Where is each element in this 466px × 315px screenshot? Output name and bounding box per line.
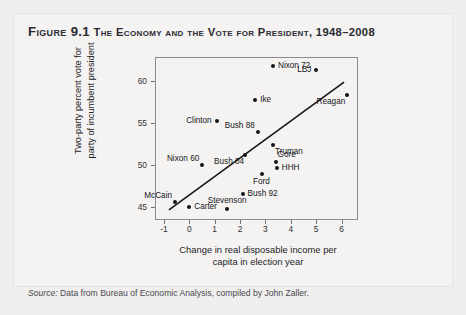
y-tick-label: 50 (131, 160, 147, 170)
x-tick-label: 1 (212, 224, 217, 234)
data-point-label: Ike (260, 95, 271, 104)
x-tick-label: 3 (263, 224, 268, 234)
y-axis-title: Two-party percent vote for party of incu… (72, 13, 97, 189)
source-note: Source: Data from Bureau of Economic Ana… (28, 288, 309, 298)
x-axis-title: Change in real disposable income per cap… (168, 244, 348, 268)
data-point-label: Ford (253, 177, 270, 186)
y-tick-mark (151, 81, 155, 82)
x-tick-label: 4 (288, 224, 293, 234)
x-tick-label: -1 (160, 224, 167, 234)
x-axis-title-line1: Change in real disposable income per (179, 244, 336, 255)
y-tick-label: 60 (131, 76, 147, 86)
figure-container: Figure 9.1 The Economy and the Vote for … (0, 0, 466, 315)
data-point (225, 207, 229, 211)
data-point (241, 192, 245, 196)
x-tick-label: 6 (339, 224, 344, 234)
x-tick-label: 2 (238, 224, 243, 234)
data-point (275, 166, 279, 170)
y-tick-label: 55 (131, 118, 147, 128)
data-point (256, 130, 260, 134)
data-point (253, 98, 257, 102)
data-point-label: Nixon 60 (167, 154, 199, 163)
data-point-label: Bush 88 (225, 121, 255, 130)
data-point-label: Gore (278, 150, 296, 159)
x-tick-label: 5 (314, 224, 319, 234)
data-point-label: Stevenson (208, 196, 247, 205)
data-point-label: Clinton (186, 116, 212, 125)
data-point (314, 68, 318, 72)
data-point-label: HHH (282, 163, 300, 172)
y-tick-mark (151, 165, 155, 166)
data-point (200, 163, 204, 167)
y-tick-label: 45 (131, 202, 147, 212)
data-point (187, 205, 191, 209)
data-point-label: Bush 92 (248, 189, 278, 198)
scatter-plot: -10123456 45505560 McCainCarterNixon 60C… (0, 0, 466, 315)
data-point (271, 64, 275, 68)
data-point (260, 172, 264, 176)
data-point-label: LBJ (297, 65, 311, 74)
data-point (274, 160, 278, 164)
y-tick-mark (151, 207, 155, 208)
y-axis-title-line1: Two-party percent vote for (73, 47, 83, 154)
y-axis-title-line2: party of incumbent president (85, 43, 95, 159)
data-point-label: Bush 04 (214, 157, 244, 166)
data-point-label: Reagan (317, 97, 346, 106)
x-axis-title-line2: capita in election year (213, 256, 304, 267)
y-tick-mark (151, 123, 155, 124)
x-tick-label: 0 (187, 224, 192, 234)
source-label: Source: (28, 288, 58, 298)
data-point (173, 200, 177, 204)
source-text: Data from Bureau of Economic Analysis, c… (58, 288, 309, 298)
data-point (215, 119, 219, 123)
data-point-label: McCain (144, 191, 172, 200)
